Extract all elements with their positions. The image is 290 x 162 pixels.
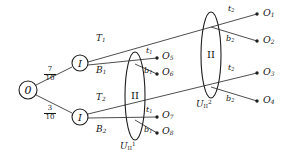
action-label-b2-o4-sub: 2 [231, 97, 234, 103]
outcome-label-o5-sub: 5 [170, 54, 174, 61]
outcome-label-o4-text: O [263, 94, 271, 105]
action-label-t1-o7: t1 [146, 106, 152, 114]
action-label-t1-o5: t1 [146, 47, 152, 55]
lower-probability-denominator: 10 [44, 114, 56, 122]
branch-label-t2-sub: 2 [102, 96, 106, 102]
lower-branch-probability: 3 10 [44, 105, 56, 121]
action-label-t2-o3: t2 [228, 64, 234, 72]
action-label-b1-o6-sub: 1 [149, 69, 152, 75]
branch-label-b1-text: B [96, 65, 103, 75]
outcome-label-o6-text: O [162, 66, 170, 77]
branch-label-b1: B1 [96, 66, 106, 76]
outcome-label-o8-sub: 8 [170, 129, 174, 136]
outcome-label-o2-text: O [263, 34, 271, 45]
root-chance-node-label: 0 [25, 84, 32, 97]
outcome-label-o3: O3 [263, 67, 275, 77]
outcome-label-o4-sub: 4 [271, 98, 275, 105]
infoset-u2-ii-player-label: II [207, 49, 215, 60]
outcome-label-o3-text: O [263, 66, 271, 77]
outcome-label-o7-sub: 7 [170, 113, 174, 120]
outcome-label-o1-text: O [263, 7, 271, 18]
outcome-label-o7: O7 [162, 110, 174, 120]
branch-label-b1-sub: 1 [103, 69, 107, 75]
outcome-dot-o2 [255, 39, 258, 42]
action-label-t2-o1-sub: 2 [231, 7, 234, 13]
game-tree-diagram: 0 I I II II 7 10 3 10 T1 B1 [0, 0, 290, 162]
outcome-dot-o6 [155, 72, 158, 75]
outcome-label-o5: O5 [162, 51, 174, 61]
infoset-label-u2-ii-text: U [196, 99, 204, 109]
upper-probability-denominator: 10 [44, 75, 56, 83]
branch-label-b2: B2 [96, 125, 106, 135]
outcome-dot-o1 [255, 12, 258, 15]
branch-label-t2: T2 [96, 93, 106, 103]
lower-probability-numerator: 3 [44, 105, 56, 113]
outcome-dot-o8 [155, 131, 158, 134]
branch-label-t1: T1 [96, 34, 106, 44]
outcome-label-o6: O6 [162, 67, 174, 77]
outcome-label-o1-sub: 1 [271, 11, 275, 18]
upper-probability-numerator: 7 [44, 66, 56, 74]
action-label-t2-o1: t2 [228, 5, 234, 13]
outcome-dot-o4 [255, 99, 258, 102]
action-label-b1-o8-sub: 1 [149, 128, 152, 134]
branch-label-b2-sub: 2 [103, 128, 107, 134]
outcome-dot-o3 [255, 71, 258, 74]
infoset-label-u1-ii-sup: 1 [132, 141, 136, 147]
outcome-label-o2: O2 [263, 35, 275, 45]
infoset-label-u1-ii: UII1 [120, 142, 136, 152]
action-label-t2-o3-sub: 2 [231, 66, 234, 72]
action-label-b1-o6: b1 [144, 67, 152, 75]
outcome-label-o1: O1 [263, 8, 275, 18]
action-label-t1-o7-sub: 1 [149, 108, 152, 114]
upper-branch-probability: 7 10 [44, 66, 56, 82]
outcome-label-o2-sub: 2 [271, 38, 275, 45]
outcome-label-o7-text: O [162, 109, 170, 120]
outcome-label-o8-text: O [162, 125, 170, 136]
infoset-label-u2-ii: UII2 [196, 100, 212, 110]
action-label-b2-o4: b2 [226, 95, 234, 103]
action-label-b2-o2: b2 [226, 35, 234, 43]
branch-label-t1-sub: 1 [102, 37, 106, 43]
action-label-t1-o5-sub: 1 [149, 49, 152, 55]
infoset-u1-ii-player-label: II [131, 90, 139, 101]
outcome-label-o4: O4 [263, 95, 275, 105]
infoset-label-u2-ii-sup: 2 [208, 99, 212, 105]
outcome-label-o8: O8 [162, 126, 174, 136]
edge-b2 [88, 117, 157, 118]
branch-label-b2-text: B [96, 124, 103, 134]
outcome-label-o3-sub: 3 [271, 70, 275, 77]
action-label-b2-o2-sub: 2 [231, 37, 234, 43]
outcome-label-o6-sub: 6 [170, 70, 174, 77]
outcome-dot-o5 [155, 56, 158, 59]
outcome-label-o5-text: O [162, 50, 170, 61]
action-label-b1-o8: b1 [144, 126, 152, 134]
outcome-dot-o7 [155, 115, 158, 118]
infoset-label-u1-ii-text: U [120, 141, 128, 151]
